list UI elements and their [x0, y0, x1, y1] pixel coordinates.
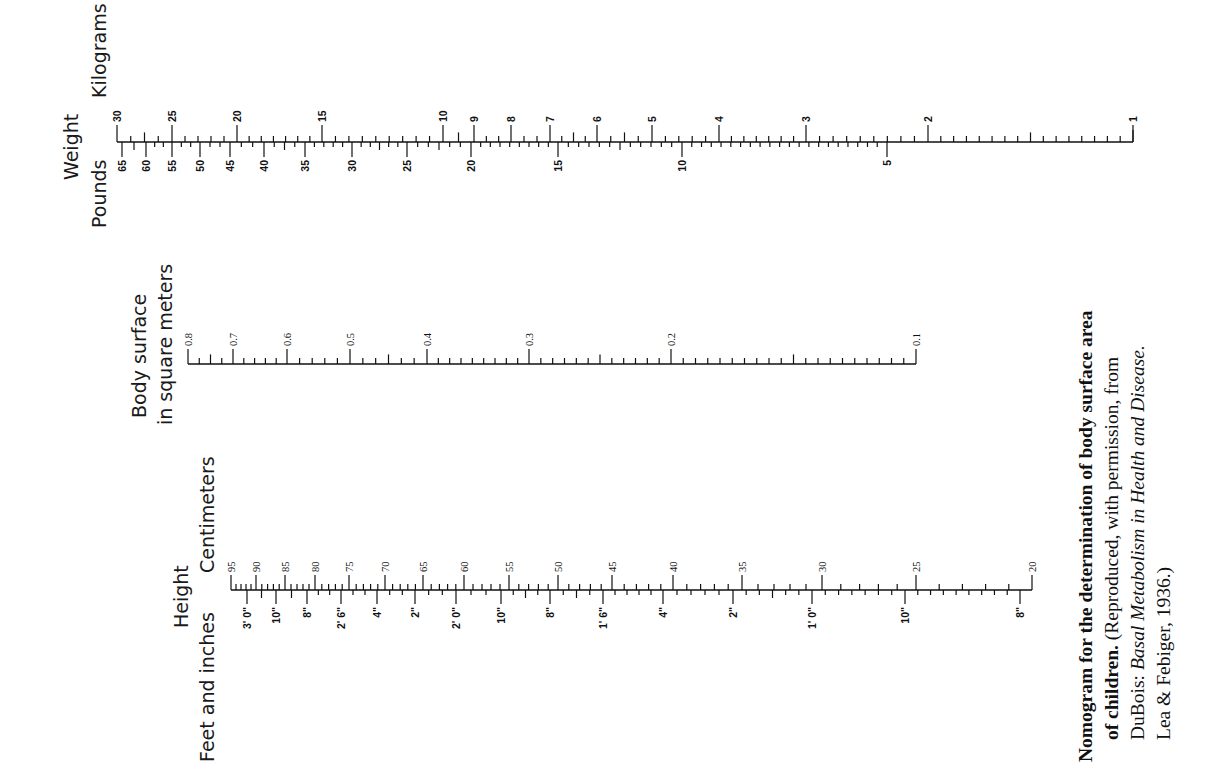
centimeter-label: 70 [380, 562, 391, 573]
kilogram-label: 2 [922, 116, 934, 122]
centimeter-label: 95 [226, 562, 237, 573]
surface-label: 0.6 [282, 333, 293, 346]
feet-inches-label: 10" [270, 607, 282, 624]
caption-line-3: DuBois: Basal Metabolism in Health and D… [1127, 345, 1148, 740]
centimeter-label: 50 [553, 562, 564, 573]
caption-line-1: Nomogram for the determination of body s… [1075, 310, 1096, 762]
kilogram-label: 20 [231, 110, 243, 122]
kilograms-label: Kilograms [88, 3, 110, 98]
centimeter-label: 35 [737, 562, 748, 573]
centimeter-label: 90 [251, 562, 262, 573]
feet-inches-label: 8" [301, 607, 313, 618]
kilogram-label: 1 [1127, 116, 1139, 122]
pound-label: 60 [140, 160, 152, 172]
pound-label: 35 [299, 160, 311, 172]
feet-inches-label: 2" [409, 607, 421, 618]
centimeter-label: 25 [911, 562, 922, 573]
pound-label: 25 [401, 160, 413, 172]
surface-label: 0.4 [422, 332, 433, 346]
surface-label: 0.7 [228, 333, 239, 346]
feet-inches-label: 8" [1014, 607, 1026, 618]
kilogram-label: 10 [437, 110, 449, 122]
height-scale: 959085807570656055504540353025203' 0"10"… [226, 562, 1038, 630]
caption-line-4: Lea & Febiger, 1936.) [1153, 567, 1175, 740]
caption-line-2: of children. (Reproduced, with permissio… [1101, 357, 1123, 740]
kilogram-label: 25 [166, 110, 178, 122]
centimeter-label: 85 [280, 562, 291, 573]
kilogram-label: 30 [111, 110, 123, 122]
surface-axis-titles: Body surface in square meters [128, 264, 176, 425]
surface-title: Body surface [128, 294, 150, 418]
surface-subtitle: in square meters [154, 264, 176, 425]
pound-label: 40 [258, 160, 270, 172]
surface-label: 0.2 [666, 333, 677, 346]
feet-inches-label: 2' 0" [450, 607, 462, 629]
centimeter-label: 40 [668, 562, 679, 573]
surface-label: 0.1 [911, 333, 922, 346]
figure-caption: Nomogram for the determination of body s… [1075, 310, 1175, 762]
pound-label: 5 [881, 160, 893, 166]
centimeters-label: Centimeters [196, 456, 218, 573]
weight-title: Weight [60, 114, 82, 180]
pounds-label: Pounds [88, 160, 110, 228]
centimeter-label: 30 [817, 562, 828, 573]
surface-label: 0.5 [345, 333, 356, 346]
pound-label: 10 [676, 160, 688, 172]
pound-label: 20 [465, 160, 477, 172]
feet-inches-label: 10" [899, 607, 911, 624]
pound-label: 15 [552, 160, 564, 172]
feet-inches-label: Feet and inches [196, 612, 218, 762]
weight-axis-titles: Weight Kilograms Pounds [60, 3, 110, 228]
feet-inches-label: 3' 0" [241, 607, 253, 629]
centimeter-label: 75 [344, 562, 355, 573]
kilogram-label: 4 [713, 116, 725, 122]
feet-inches-label: 4" [657, 607, 669, 618]
body-surface-scale: 0.80.70.60.50.40.30.20.1 [183, 332, 922, 364]
pound-label: 55 [166, 160, 178, 172]
feet-inches-label: 8" [544, 607, 556, 618]
centimeter-label: 80 [310, 562, 321, 573]
surface-label: 0.8 [183, 333, 194, 346]
kilogram-label: 5 [646, 116, 658, 122]
weight-scale: 3025201510987654321656055504540353025201… [111, 110, 1139, 172]
kilogram-label: 15 [316, 110, 328, 122]
kilogram-label: 7 [544, 116, 556, 122]
pound-label: 45 [224, 160, 236, 172]
feet-inches-label: 2' 6" [335, 607, 347, 629]
kilogram-label: 6 [591, 116, 603, 122]
pound-label: 65 [116, 160, 128, 172]
height-title: Height [170, 565, 192, 628]
nomogram: Weight Kilograms Pounds Body surface in … [0, 0, 1219, 782]
kilogram-label: 8 [505, 116, 517, 122]
centimeter-label: 65 [418, 562, 429, 573]
kilogram-label: 3 [800, 116, 812, 122]
surface-label: 0.3 [524, 333, 535, 346]
centimeter-label: 20 [1027, 562, 1038, 573]
pound-label: 50 [194, 160, 206, 172]
feet-inches-label: 1' 6" [597, 607, 609, 629]
feet-inches-label: 2" [727, 607, 739, 618]
pound-label: 30 [346, 160, 358, 172]
centimeter-label: 55 [504, 562, 515, 573]
feet-inches-label: 1' 0" [806, 607, 818, 629]
centimeter-label: 45 [607, 562, 618, 573]
height-axis-titles: Height Centimeters Feet and inches [170, 456, 218, 762]
feet-inches-label: 10" [495, 607, 507, 624]
feet-inches-label: 4" [371, 607, 383, 618]
centimeter-label: 60 [459, 562, 470, 573]
kilogram-label: 9 [468, 116, 480, 122]
